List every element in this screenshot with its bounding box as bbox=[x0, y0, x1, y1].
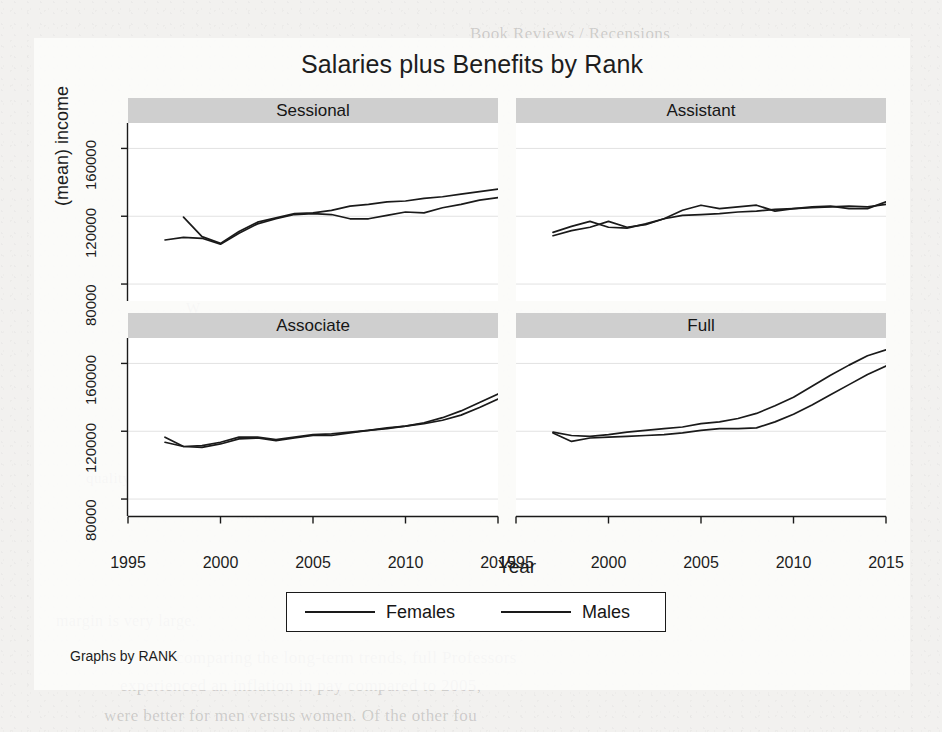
legend-label: Females bbox=[386, 602, 455, 623]
y-tick-labels-row-bottom: 80000120000160000 bbox=[128, 338, 162, 516]
y-tick-label: 160000 bbox=[82, 140, 99, 190]
legend-entry-males: Males bbox=[501, 602, 630, 623]
panel-sessional: Sessional bbox=[128, 98, 498, 301]
y-axis-title: (mean) income bbox=[52, 6, 73, 206]
legend-line-icon bbox=[501, 611, 571, 613]
bleed-text: were better for men versus women. Of the… bbox=[104, 706, 477, 726]
y-tick-label: 80000 bbox=[82, 499, 99, 541]
legend-entry-females: Females bbox=[305, 602, 455, 623]
series-line-males bbox=[553, 366, 886, 441]
panel-label: Full bbox=[687, 316, 714, 336]
legend-line-icon bbox=[305, 611, 375, 613]
panel-label: Sessional bbox=[276, 101, 350, 121]
x-axis-title: Year bbox=[124, 556, 910, 578]
panel-strip-associate: Associate bbox=[128, 313, 498, 338]
panel-label: Assistant bbox=[667, 101, 736, 121]
panel-grid: Sessional Assistant Associate Fu bbox=[128, 98, 886, 548]
y-tick-labels-row-top: 80000120000160000 bbox=[128, 123, 162, 301]
panel-strip-sessional: Sessional bbox=[128, 98, 498, 123]
series-line-males bbox=[165, 399, 498, 446]
panel-strip-full: Full bbox=[516, 313, 886, 338]
panel-plot-area bbox=[516, 123, 886, 301]
panel-plot-area bbox=[128, 123, 498, 301]
panel-label: Associate bbox=[276, 316, 350, 336]
series-line-females bbox=[165, 198, 498, 245]
chart-figure: Salaries plus Benefits by Rank (mean) in… bbox=[34, 38, 910, 690]
panel-plot-area bbox=[128, 338, 498, 516]
panel-associate: Associate bbox=[128, 313, 498, 516]
y-tick-label: 80000 bbox=[82, 284, 99, 326]
graphs-by-note: Graphs by RANK bbox=[70, 648, 177, 664]
page-title: Salaries plus Benefits by Rank bbox=[34, 50, 910, 79]
panel-full: Full bbox=[516, 313, 886, 516]
y-tick-label: 120000 bbox=[82, 423, 99, 473]
panel-plot-area bbox=[516, 338, 886, 516]
series-line-females bbox=[165, 394, 498, 447]
series-line-females bbox=[553, 350, 886, 436]
panel-assistant: Assistant bbox=[516, 98, 886, 301]
chart-legend: Females Males bbox=[286, 592, 666, 632]
y-tick-label: 160000 bbox=[82, 355, 99, 405]
panel-strip-assistant: Assistant bbox=[516, 98, 886, 123]
legend-label: Males bbox=[582, 602, 630, 623]
y-tick-label: 120000 bbox=[82, 208, 99, 258]
